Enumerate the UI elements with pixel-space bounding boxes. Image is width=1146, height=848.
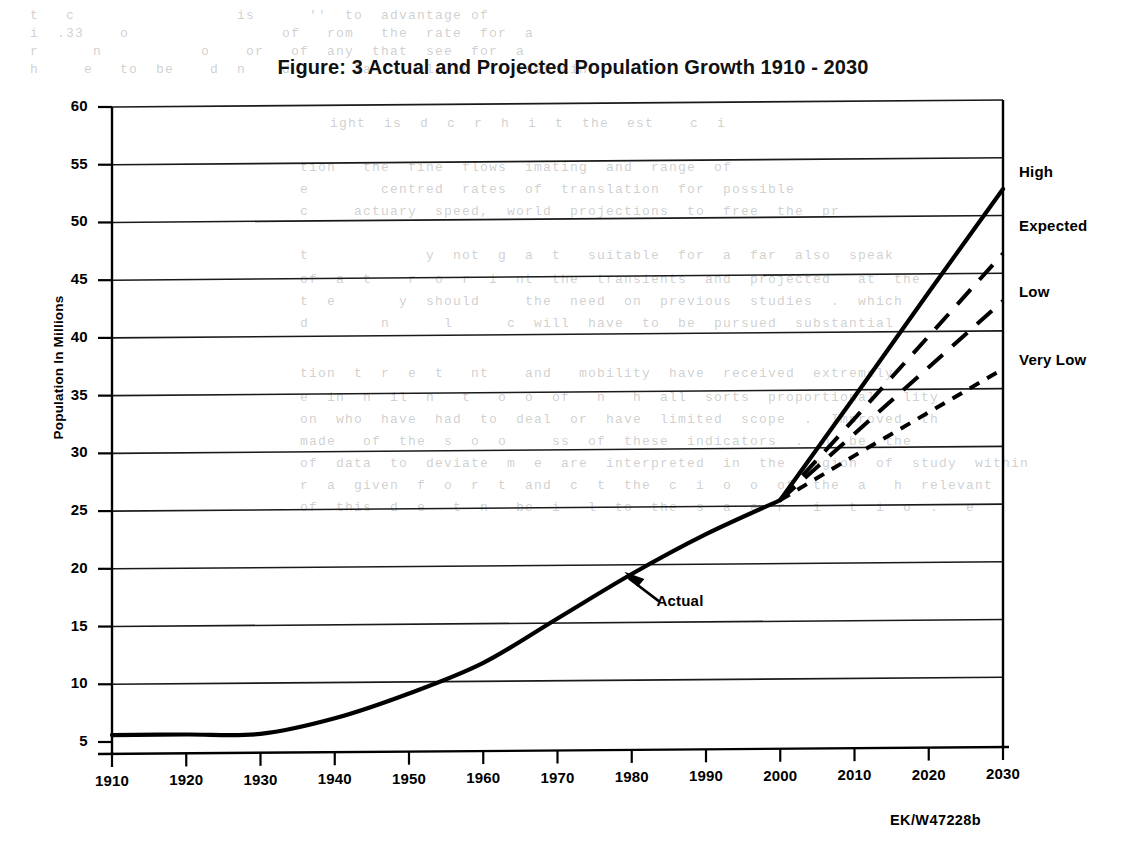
source-code-label: EK/W47228b <box>890 812 981 828</box>
y-tick-label: 55 <box>44 155 88 172</box>
y-tick-label: 10 <box>44 674 88 691</box>
y-tick-label: 30 <box>44 443 88 460</box>
x-tick-label: 1940 <box>300 770 370 787</box>
y-tick-label: 45 <box>44 270 88 287</box>
x-tick-label: 2020 <box>894 766 964 783</box>
x-tick-label: 1950 <box>374 770 444 787</box>
annotation-arrow <box>624 572 658 601</box>
y-tick-label: 60 <box>44 97 88 114</box>
series-label-low: Low <box>1019 283 1050 300</box>
series-line-high <box>780 189 1003 500</box>
x-tick-label: 2030 <box>968 765 1038 782</box>
series-label-high: High <box>1019 163 1053 180</box>
y-tick-label: 50 <box>44 212 88 229</box>
x-tick-label: 2000 <box>745 767 815 784</box>
axis-frame <box>98 100 1009 754</box>
actual-annotation-label: Actual <box>656 592 703 609</box>
x-tick-label: 1990 <box>671 767 741 784</box>
y-tick-label: 35 <box>44 386 88 403</box>
y-tick-label: 40 <box>44 328 88 345</box>
figure-container: Figure: 3 Actual and Projected Populatio… <box>0 0 1146 848</box>
y-tick-label: 15 <box>44 617 88 634</box>
series-label-expected: Expected <box>1019 217 1087 234</box>
gridlines <box>112 100 1003 684</box>
series-label-very-low: Very Low <box>1019 351 1086 368</box>
x-tick-label: 2010 <box>820 766 890 783</box>
x-tick-label: 1980 <box>597 768 667 785</box>
x-tick-label: 1910 <box>77 772 147 789</box>
y-axis-ticks <box>98 107 112 742</box>
y-tick-label: 20 <box>44 559 88 576</box>
y-tick-label: 5 <box>44 732 88 749</box>
x-tick-label: 1920 <box>151 771 221 788</box>
y-tick-label: 25 <box>44 501 88 518</box>
series-line-actual <box>112 500 780 735</box>
x-tick-label: 1930 <box>226 771 296 788</box>
x-tick-label: 1960 <box>448 769 518 786</box>
data-series <box>112 189 1003 735</box>
series-line-expected <box>780 254 1003 501</box>
x-tick-label: 1970 <box>523 769 593 786</box>
line-chart-plot <box>0 0 1146 848</box>
